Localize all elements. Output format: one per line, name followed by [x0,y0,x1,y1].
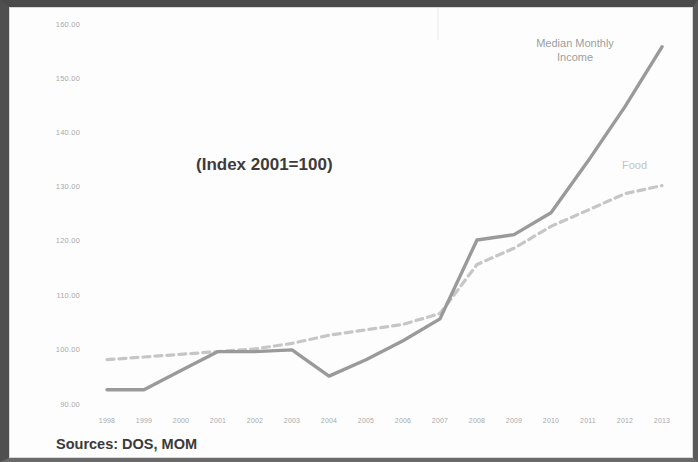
series-lines-svg [0,0,698,462]
income-series-line [107,47,662,390]
index-note: (Index 2001=100) [196,155,333,175]
screenshot-root: 160.00 150.00 140.00 130.00 120.00 110.0… [0,0,698,462]
series-label-income: Median Monthly Income [528,36,622,64]
series-label-food: Food [622,158,647,172]
food-series-line [107,186,662,360]
source-note: Sources: DOS, MOM [56,436,197,452]
chart-plot-area: 160.00 150.00 140.00 130.00 120.00 110.0… [0,0,698,462]
series-label-income-line1: Median Monthly [528,36,622,50]
series-label-income-line2: Income [528,50,622,64]
